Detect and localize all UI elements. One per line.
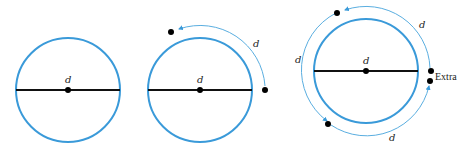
- arc-label-2: d: [295, 54, 301, 65]
- arc-arrow-3: [331, 86, 429, 136]
- center-dot: [363, 68, 369, 74]
- arc-label-3: d: [389, 132, 395, 143]
- dot-1: [334, 10, 340, 16]
- diameter-label: d: [363, 55, 369, 66]
- pi-diagram: d d d d d d d Extra: [0, 0, 472, 151]
- end-dot: [427, 78, 433, 84]
- arc-label-1: d: [419, 19, 425, 30]
- extra-label: Extra: [435, 71, 457, 82]
- dot-2: [325, 121, 331, 127]
- arc-label: d: [253, 38, 259, 49]
- center-dot: [65, 87, 71, 93]
- diagram-canvas: d d d d d d d Extra: [0, 0, 472, 151]
- diameter-label: d: [197, 74, 203, 85]
- arc-start-dot: [262, 87, 268, 93]
- arc-arrow-2: [301, 13, 336, 121]
- arc-end-dot: [168, 29, 174, 35]
- start-dot: [428, 68, 434, 74]
- arc-arrow: [179, 25, 265, 86]
- panel-1: d: [16, 38, 120, 142]
- diameter-label: d: [65, 74, 71, 85]
- panel-3: d d d d Extra: [295, 6, 457, 143]
- panel-2: d d: [148, 25, 268, 142]
- center-dot: [197, 87, 203, 93]
